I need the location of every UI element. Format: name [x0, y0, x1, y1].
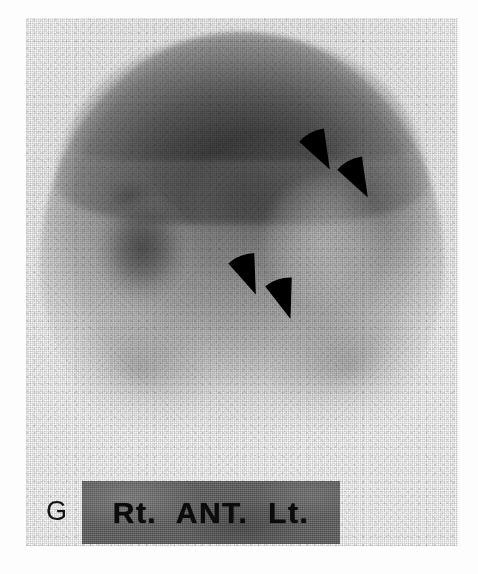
scintigram-image	[26, 18, 458, 546]
figure-page: G Rt. ANT. Lt.	[0, 0, 478, 574]
field-of-view-vignette	[26, 18, 458, 546]
orientation-label-text: Rt. ANT. Lt.	[113, 496, 310, 530]
film-panel-letter: G	[46, 498, 67, 525]
orientation-label-bar: Rt. ANT. Lt.	[82, 481, 340, 544]
